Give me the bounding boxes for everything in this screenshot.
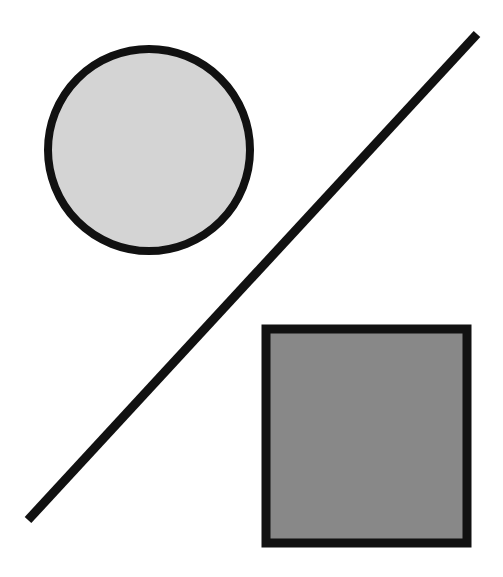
figure-canvas (0, 0, 503, 577)
circle-shape (48, 49, 250, 251)
square-shape (266, 329, 467, 543)
shapes-svg (0, 0, 503, 577)
